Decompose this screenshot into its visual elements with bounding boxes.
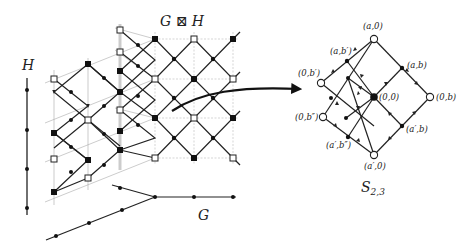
node-0-b-prime — [317, 79, 324, 86]
node-0-b-dprime — [319, 113, 326, 120]
node-a-prime-b — [400, 124, 404, 128]
label-result-graph: S2,3 — [361, 179, 385, 197]
label-H: H — [21, 57, 35, 73]
node-a-prime-b-dprime — [346, 135, 350, 139]
label-a-0: (a,0) — [363, 21, 383, 31]
label-0-b-prime: (0,b′) — [298, 68, 320, 78]
node-a-0 — [370, 35, 377, 42]
graph-H — [25, 78, 29, 215]
node-a-b-prime — [345, 59, 349, 63]
product-back-edges — [54, 30, 155, 192]
label-a-b-prime: (a,b′) — [330, 46, 352, 56]
label-a-prime-b-dprime: (a′,b″) — [326, 140, 351, 150]
node-0-b — [426, 93, 433, 100]
mapping-arrow — [172, 88, 300, 111]
diagram-canvas: H G G ⊠ H — [0, 0, 472, 248]
title-product: G ⊠ H — [160, 13, 205, 29]
label-a-prime-b: (a′,b) — [406, 124, 428, 134]
label-G: G — [198, 207, 209, 223]
label-0-b-dprime: (0,b″) — [295, 112, 318, 122]
node-a-prime-0 — [370, 151, 377, 158]
node-0-0 — [370, 93, 378, 101]
label-0-b: (0,b) — [436, 92, 456, 102]
label-0-0: (0,0) — [379, 92, 399, 102]
label-a-b: (a,b) — [407, 60, 427, 70]
node-a-b — [400, 66, 404, 70]
label-a-prime-0: (a′,0) — [364, 161, 386, 171]
